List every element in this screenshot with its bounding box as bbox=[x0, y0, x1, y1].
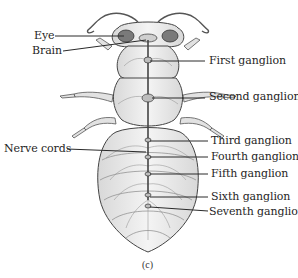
ganglion-6 bbox=[145, 193, 151, 197]
label-first-ganglion: First ganglion bbox=[209, 55, 286, 67]
label-eye: Eye bbox=[34, 30, 54, 42]
ganglion-1 bbox=[144, 57, 152, 63]
legs-left bbox=[60, 38, 116, 138]
figure-caption: (c) bbox=[142, 259, 153, 270]
label-fourth-ganglion: Fourth ganglion bbox=[211, 151, 298, 163]
insect-nervous-system-diagram: Eye Brain Nerve cords First ganglion Sec… bbox=[0, 0, 298, 278]
label-sixth-ganglion: Sixth ganglion bbox=[211, 191, 290, 203]
label-second-ganglion: Second ganglion bbox=[209, 91, 298, 103]
legs-right bbox=[180, 38, 236, 138]
label-brain: Brain bbox=[32, 45, 62, 57]
label-seventh-ganglion: Seventh ganglion bbox=[209, 206, 298, 218]
label-fifth-ganglion: Fifth ganglion bbox=[211, 168, 288, 180]
eye-right-icon bbox=[162, 30, 178, 42]
label-nerve-cords: Nerve cords bbox=[4, 143, 71, 155]
label-third-ganglion: Third ganglion bbox=[211, 135, 292, 147]
